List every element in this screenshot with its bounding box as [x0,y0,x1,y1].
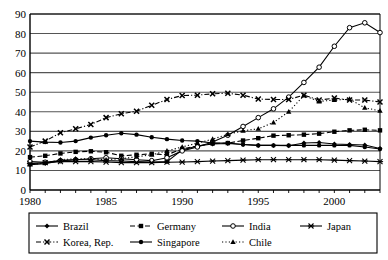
y-axis-tick-label: 10 [15,164,27,176]
data-point-marker-open-circle [332,44,337,49]
y-axis-tick-label: 60 [15,67,27,79]
data-point-marker-open-circle [302,80,307,85]
x-axis-tick-label: 2000 [323,195,346,207]
x-axis-tick-label: 1985 [95,195,118,207]
data-point-marker-filled-circle [226,141,230,145]
data-point-marker-filled-circle [332,143,336,147]
x-axis-tick-label: 1980 [19,195,42,207]
data-point-marker-filled-circle [363,145,367,149]
y-axis-tick-label: 30 [15,125,27,137]
data-point-marker-filled-circle [150,135,154,139]
y-axis-tick-label: 80 [15,28,27,40]
data-point-marker-filled-circle [241,142,245,146]
data-point-marker-open-circle [317,65,322,70]
data-point-marker-filled-square [43,154,47,158]
data-point-marker-open-circle [256,115,261,120]
data-point-marker-filled-square [363,128,367,132]
y-axis-tick-label: 50 [15,86,27,98]
data-point-marker-filled-circle [139,240,143,244]
data-point-marker-filled-circle [271,143,275,147]
y-axis-tick-label: 40 [15,106,27,118]
data-point-marker-filled-square [73,150,77,154]
data-point-marker-filled-circle [256,143,260,147]
y-axis-tick-label: 90 [15,8,27,20]
data-point-marker-filled-square [241,138,245,142]
data-point-marker-open-circle [271,107,276,112]
chart-legend: BrazilGermanyIndiaJapanKorea, Rep.Singap… [29,213,377,253]
data-point-marker-filled-square [378,128,382,132]
line-chart: 0102030405060708090 19801985199019952000… [0,0,388,260]
chart-canvas: 0102030405060708090 19801985199019952000… [0,0,388,260]
data-point-marker-filled-circle [317,143,321,147]
data-point-marker-filled-circle [134,132,138,136]
data-point-marker-filled-circle [286,143,290,147]
legend-label: Brazil [63,221,89,232]
data-point-marker-filled-circle [378,147,382,151]
data-point-marker-filled-square [332,130,336,134]
data-point-marker-filled-square [89,149,93,153]
data-point-marker-open-circle [180,149,185,154]
data-point-marker-filled-square [28,155,32,159]
data-point-marker-open-circle [195,145,200,150]
x-axis-tick-label: 1990 [171,195,194,207]
data-point-marker-filled-square [104,150,108,154]
data-point-marker-filled-square [317,131,321,135]
y-axis-tick-label: 20 [15,145,27,157]
data-point-marker-filled-circle [302,143,306,147]
legend-label: Korea, Rep. [63,237,113,248]
data-point-marker-filled-square [286,133,290,137]
data-point-marker-filled-circle [104,133,108,137]
data-point-marker-filled-square [58,151,62,155]
x-axis-tick-label: 1995 [247,195,270,207]
data-point-marker-open-circle [362,21,367,26]
data-point-marker-filled-square [139,224,143,228]
data-point-marker-filled-circle [347,143,351,147]
data-point-marker-open-circle [347,25,352,30]
data-point-marker-filled-square [302,132,306,136]
data-point-marker-filled-circle [210,141,214,145]
data-point-marker-filled-circle [165,137,169,141]
data-point-marker-filled-circle [28,139,32,143]
data-point-marker-filled-square [256,136,260,140]
legend-label: Chile [249,237,272,248]
legend-label: Japan [327,221,352,232]
data-point-marker-filled-circle [43,140,47,144]
data-point-marker-filled-square [271,133,275,137]
data-point-marker-filled-circle [119,131,123,135]
data-point-marker-filled-circle [89,135,93,139]
data-point-marker-filled-circle [58,140,62,144]
y-axis-tick-label: 70 [15,47,27,59]
data-point-marker-filled-circle [73,139,77,143]
legend-label: Singapore [157,237,200,248]
data-point-marker-filled-square [347,128,351,132]
data-point-marker-open-circle [231,224,236,229]
legend-label: Germany [157,221,197,232]
data-point-marker-filled-circle [180,138,184,142]
data-point-marker-open-circle [165,155,170,160]
data-point-marker-open-circle [378,30,383,35]
legend-label: India [249,221,271,232]
